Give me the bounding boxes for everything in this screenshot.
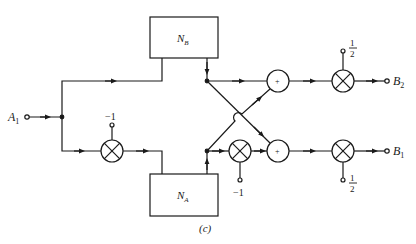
figure-caption: (c)	[199, 222, 212, 235]
gain-top-numerator: 1	[350, 38, 355, 48]
gain-bottom-numerator: 1	[350, 173, 355, 183]
wire-to-nb	[62, 58, 162, 117]
adder-top-symbol: +	[275, 77, 280, 86]
multiplier-lower-inverter	[229, 140, 251, 162]
block-diagram: A1 NB NA −1 −1 1 2 1 2 + + B2 B1 (c)	[0, 0, 416, 244]
block-nb-label: NB	[176, 32, 189, 47]
gain-terminal	[110, 123, 114, 127]
wire-to-inverter	[62, 117, 101, 151]
output-terminal-b2	[385, 79, 389, 83]
gain-terminal	[238, 178, 242, 182]
input-label-a1: A1	[7, 110, 19, 126]
gain-label-lower-inverter: −1	[233, 187, 244, 198]
gain-top-denominator: 2	[350, 49, 355, 59]
gain-terminal	[341, 49, 345, 53]
output-label-b2: B2	[393, 74, 404, 90]
multiplier-top-half	[332, 70, 354, 92]
adder-bottom-symbol: +	[275, 147, 280, 156]
wire-to-na	[123, 151, 162, 174]
multiplier-bottom-half	[332, 140, 354, 162]
output-terminal-b1	[385, 149, 389, 153]
arrow-icon	[254, 127, 262, 135]
multiplier-input-inverter	[101, 140, 123, 162]
gain-terminal	[341, 178, 345, 182]
wire-cross-up	[207, 89, 270, 151]
gain-bottom-denominator: 2	[350, 184, 355, 194]
arrow-icon	[252, 98, 260, 105]
input-terminal-a1	[25, 115, 29, 119]
gain-label-input-inverter: −1	[105, 111, 116, 122]
block-na-label: NA	[176, 189, 189, 204]
output-label-b1: B1	[393, 144, 404, 160]
